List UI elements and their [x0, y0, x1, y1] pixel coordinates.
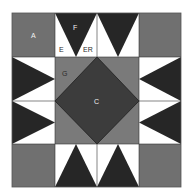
corner-square-bottom-right [139, 144, 181, 187]
label-e: E [59, 46, 64, 53]
quilt-block-svg: A F E ER G C [0, 0, 191, 195]
label-er: ER [83, 46, 93, 53]
label-f: F [73, 24, 77, 31]
corner-square-bottom-left [12, 144, 55, 187]
corner-square-top-right [139, 13, 181, 57]
label-a: A [31, 32, 36, 39]
label-c: C [94, 98, 99, 105]
label-g: G [62, 70, 67, 77]
quilt-block-diagram: A F E ER G C [0, 0, 191, 195]
